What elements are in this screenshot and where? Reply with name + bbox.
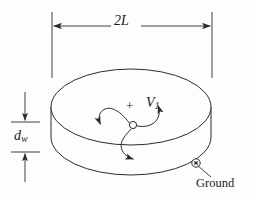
voltage-label-subscript: 1 <box>155 101 160 111</box>
ground-label: Ground <box>196 177 234 190</box>
width-dimension-label: 2L <box>114 14 129 28</box>
voltage-label-base: V <box>146 95 155 110</box>
ground-contact-group <box>192 159 211 177</box>
thickness-label-subscript: w <box>21 134 27 144</box>
voltage-label: V1 <box>146 96 160 112</box>
width-dimension-group <box>52 12 212 78</box>
thickness-label-base: d <box>14 128 21 143</box>
spiral-hub-circle <box>129 121 136 128</box>
polarity-plus-label: + <box>126 99 133 112</box>
technical-diagram-figure: 2L dw + V1 Ground <box>0 0 255 200</box>
thickness-dimension-label: dw <box>14 129 28 145</box>
